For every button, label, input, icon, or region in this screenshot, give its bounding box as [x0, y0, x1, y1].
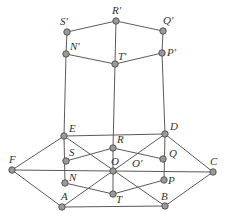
segment-t-p [113, 180, 164, 194]
segment-n-t [65, 183, 113, 194]
label-s1: S' [60, 15, 69, 27]
point-o [110, 168, 116, 174]
label-q: Q [169, 147, 177, 159]
label-b: B [161, 190, 168, 202]
label-f: F [8, 153, 16, 165]
point-q [160, 156, 166, 162]
segment-b-a [62, 206, 165, 207]
label-p: P [167, 174, 175, 186]
point-p [161, 177, 167, 183]
label-a: A [60, 190, 68, 202]
segment-a-f [12, 170, 62, 207]
label-n: N [68, 171, 77, 183]
label-r: R [116, 133, 124, 145]
segment-r1-t1 [115, 21, 116, 64]
point-n1 [63, 51, 69, 57]
point-p1 [159, 50, 165, 56]
segment-e-d [64, 134, 165, 136]
label-o1: O' [132, 157, 143, 169]
label-n1: N' [69, 40, 80, 52]
segment-n1-t1 [66, 54, 115, 64]
point-r [110, 145, 116, 151]
point-a [59, 204, 65, 210]
label-q1: Q' [163, 14, 174, 26]
point-s [63, 158, 69, 164]
point-q1 [160, 28, 166, 34]
geometry-diagram: S'R'Q'N'T'P'EDFCSRQOO'NPTAB [0, 0, 226, 218]
label-e: E [68, 122, 76, 134]
point-e [61, 133, 67, 139]
point-f [9, 167, 15, 173]
label-r1: R' [111, 4, 122, 16]
label-o: O [111, 155, 119, 167]
label-t: T [116, 193, 123, 205]
segment-s1-r1 [67, 21, 116, 32]
point-r1 [113, 18, 119, 24]
segment-n1-e [64, 54, 66, 136]
label-s: S [69, 146, 75, 158]
segment-f-e [12, 136, 64, 170]
label-t1: T' [118, 50, 127, 62]
point-c [210, 169, 216, 175]
segment-r1-q1 [116, 21, 163, 31]
label-d: D [169, 120, 178, 132]
point-s1 [64, 29, 70, 35]
point-d [162, 131, 168, 137]
label-p1: P' [166, 46, 177, 58]
label-c: C [210, 155, 218, 167]
point-b [162, 203, 168, 209]
point-n [62, 180, 68, 186]
edges-layer [12, 21, 213, 207]
segment-p1-d [162, 53, 165, 134]
